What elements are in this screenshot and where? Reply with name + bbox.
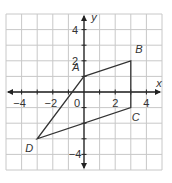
y-arrow-up-icon xyxy=(81,15,87,21)
point-label-a: A xyxy=(71,61,79,73)
x-tick-label: −2 xyxy=(45,97,58,109)
point-label-d: D xyxy=(25,142,33,154)
y-axis-label: y xyxy=(90,11,98,23)
x-tick-label: −4 xyxy=(13,97,26,109)
x-axis-label: x xyxy=(155,77,162,89)
origin-label: 0 xyxy=(74,97,80,109)
y-tick-label: 4 xyxy=(72,24,78,36)
x-arrow-left-icon xyxy=(7,89,13,95)
y-tick-label: −4 xyxy=(69,148,82,160)
labels: −4−22442−40xyABCD xyxy=(13,11,162,160)
x-tick-label: 2 xyxy=(112,97,118,109)
point-label-c: C xyxy=(132,111,140,123)
point-label-b: B xyxy=(135,43,142,55)
x-arrow-right-icon xyxy=(155,89,161,95)
coordinate-plane: −4−22442−40xyABCD xyxy=(0,0,172,183)
x-tick-label: 4 xyxy=(143,97,149,109)
y-arrow-down-icon xyxy=(81,163,87,169)
